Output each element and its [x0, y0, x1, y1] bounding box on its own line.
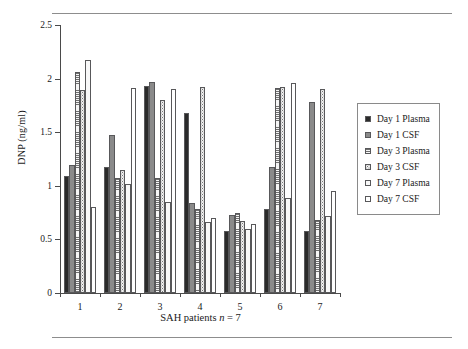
y-tick-label: 2.5 [40, 20, 52, 30]
legend-swatch [365, 116, 371, 122]
x-tick-label: 5 [238, 301, 243, 312]
y-tick-label: 2 [47, 74, 52, 84]
legend-item: Day 3 CSF [365, 159, 430, 175]
x-tick-mark [140, 293, 141, 297]
figure-panel: DNP (ng/ml) 00.511.522.5 1234567 SAH pat… [0, 0, 468, 349]
x-tick-mark [260, 293, 261, 297]
legend-item: Day 7 Plasma [365, 175, 430, 191]
bar [331, 191, 336, 293]
top-divider-rule [52, 13, 452, 14]
bottom-divider-rule [52, 337, 452, 338]
bar-group [100, 25, 140, 293]
x-tick-label: 7 [318, 301, 323, 312]
x-tick-label: 2 [118, 301, 123, 312]
x-tick-mark [180, 293, 181, 297]
bar-group [140, 25, 180, 293]
legend-swatch [365, 148, 371, 154]
x-tick-mark [220, 293, 221, 297]
legend-label: Day 1 CSF [377, 130, 419, 140]
bar [251, 224, 256, 293]
bar [211, 218, 216, 293]
bar-group [180, 25, 220, 293]
chart-legend: Day 1 PlasmaDay 1 CSFDay 3 PlasmaDay 3 C… [357, 103, 440, 215]
x-tick-label: 3 [158, 301, 163, 312]
x-tick-mark [300, 293, 301, 297]
legend-item: Day 1 CSF [365, 127, 430, 143]
bar [131, 88, 136, 293]
x-tick-mark [340, 293, 341, 297]
legend-swatch [365, 164, 371, 170]
bar-group [260, 25, 300, 293]
bar-group [60, 25, 100, 293]
legend-item: Day 3 Plasma [365, 143, 430, 159]
legend-swatch [365, 132, 371, 138]
legend-item: Day 7 CSF [365, 191, 430, 207]
x-tick-mark [100, 293, 101, 297]
x-tick-mark [60, 293, 61, 297]
x-tick-label: 6 [278, 301, 283, 312]
bar-group [300, 25, 340, 293]
bar [171, 89, 176, 293]
legend-label: Day 7 Plasma [377, 178, 430, 188]
x-axis-line [60, 293, 341, 294]
y-axis-title: DNP (ng/ml) [16, 73, 27, 203]
y-tick-label: 0 [47, 288, 52, 298]
y-tick-label: 1 [47, 181, 52, 191]
legend-swatch [365, 196, 371, 202]
x-tick-label: 4 [198, 301, 203, 312]
legend-item: Day 1 Plasma [365, 111, 430, 127]
x-axis-title: SAH patients n = 7 [60, 312, 341, 323]
legend-swatch [365, 180, 371, 186]
y-tick-label: 1.5 [40, 127, 52, 137]
legend-label: Day 3 CSF [377, 162, 419, 172]
bar [91, 207, 96, 293]
x-tick-label: 1 [78, 301, 83, 312]
bar [291, 83, 296, 293]
plot-area: 00.511.522.5 1234567 [60, 25, 340, 293]
legend-label: Day 3 Plasma [377, 146, 430, 156]
x-axis-title-prefix: SAH patients [160, 312, 219, 323]
y-tick-label: 0.5 [40, 234, 52, 244]
x-axis-title-suffix: = 7 [224, 312, 240, 323]
legend-label: Day 1 Plasma [377, 114, 430, 124]
legend-label: Day 7 CSF [377, 194, 419, 204]
bar-group [220, 25, 260, 293]
